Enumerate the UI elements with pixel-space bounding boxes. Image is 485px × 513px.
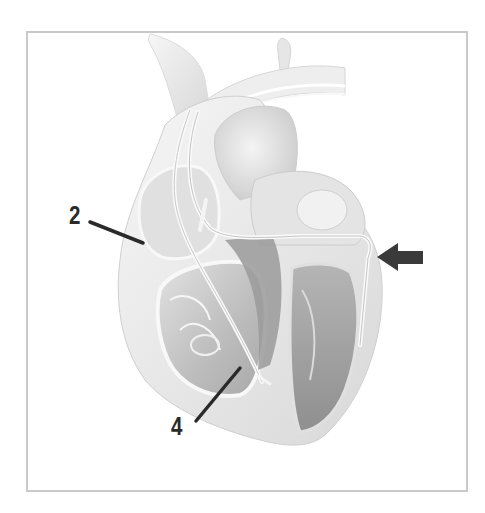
label-2: 2 <box>69 203 80 228</box>
label-4: 4 <box>171 414 182 439</box>
heart-body <box>118 96 382 445</box>
heart-illustration <box>0 0 485 513</box>
left-arrow-icon <box>377 243 423 271</box>
